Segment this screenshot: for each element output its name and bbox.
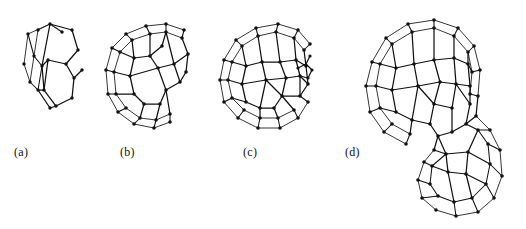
molecule-a-wireframe	[20, 12, 96, 124]
molecule-c-wireframe	[214, 8, 330, 140]
molecule-b-wireframe	[100, 8, 204, 140]
molecule-d-wireframe	[360, 4, 516, 222]
atom-markers-b	[104, 22, 190, 130]
panel-label-c: (c)	[243, 145, 257, 160]
atom-markers-c	[218, 22, 313, 130]
panel-b-structure	[100, 8, 204, 140]
panel-c-structure	[214, 8, 330, 140]
fullerene-growth-figure: (a) (b) (c) (d)	[0, 0, 526, 229]
panel-label-b: (b)	[120, 145, 135, 160]
panel-label-d: (d)	[345, 145, 360, 160]
atom-markers-a	[22, 22, 83, 109]
panel-d-structure	[360, 4, 516, 222]
panel-a-structure	[20, 12, 96, 124]
panel-label-a: (a)	[14, 145, 28, 160]
